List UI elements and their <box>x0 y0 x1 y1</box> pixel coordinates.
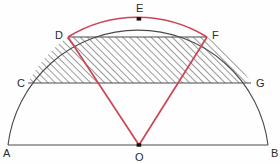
hatched-band-CDFG <box>28 37 251 83</box>
geometry-canvas: A B C G D F E O <box>0 0 280 164</box>
label-A: A <box>3 147 11 159</box>
label-E: E <box>136 2 143 14</box>
geometry-figure: A B C G D F E O <box>0 0 280 164</box>
label-C: C <box>17 77 25 89</box>
label-B: B <box>271 147 278 159</box>
label-D: D <box>55 29 63 41</box>
label-G: G <box>256 77 265 89</box>
label-O: O <box>135 151 144 163</box>
point-O-dot <box>137 143 142 146</box>
label-F: F <box>212 29 219 41</box>
hatched-band-fill <box>28 37 251 83</box>
point-E-dot <box>137 17 142 20</box>
